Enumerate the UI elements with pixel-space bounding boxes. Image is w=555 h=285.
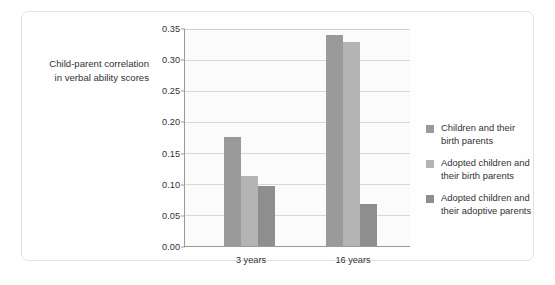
- bar[interactable]: [258, 186, 275, 246]
- y-tick-mark: [181, 215, 185, 216]
- legend-label: Children and their birth parents: [441, 122, 515, 147]
- legend-label: Adopted children and their birth parents: [441, 157, 530, 182]
- y-tick-mark: [181, 247, 185, 248]
- y-tick-label: 0.25: [162, 86, 180, 96]
- legend-label: Adopted children and their adoptive pare…: [441, 192, 531, 217]
- y-tick-mark: [181, 184, 185, 185]
- plot-inner: 0.000.050.100.150.200.250.300.353 years1…: [185, 29, 410, 246]
- y-tick-label: 0.35: [162, 24, 180, 34]
- y-tick-mark: [181, 153, 185, 154]
- bar[interactable]: [326, 35, 343, 246]
- y-tick-mark: [181, 91, 185, 92]
- legend-swatch-icon: [426, 160, 434, 168]
- y-tick-mark: [181, 60, 185, 61]
- plot-area: 0.000.050.100.150.200.250.300.353 years1…: [184, 29, 410, 247]
- y-tick-label: 0.00: [162, 242, 180, 252]
- y-tick-mark: [181, 122, 185, 123]
- bar-group: 16 years: [326, 29, 380, 246]
- y-tick-label: 0.10: [162, 180, 180, 190]
- chart-figure: Child-parent correlation in verbal abili…: [21, 11, 534, 261]
- y-axis-title: Child-parent correlation in verbal abili…: [24, 57, 149, 84]
- y-tick-mark: [181, 29, 185, 30]
- x-tick-label: 16 years: [326, 255, 380, 265]
- legend-swatch-icon: [426, 125, 434, 133]
- bar[interactable]: [241, 176, 258, 246]
- bar[interactable]: [224, 137, 241, 246]
- bar[interactable]: [343, 42, 360, 246]
- legend-item[interactable]: Adopted children and their birth parents: [426, 157, 546, 182]
- chart-legend: Children and their birth parentsAdopted …: [426, 122, 546, 227]
- legend-item[interactable]: Adopted children and their adoptive pare…: [426, 192, 546, 217]
- legend-item[interactable]: Children and their birth parents: [426, 122, 546, 147]
- x-tick-label: 3 years: [224, 255, 278, 265]
- y-tick-label: 0.05: [162, 211, 180, 221]
- bar-group: 3 years: [224, 29, 278, 246]
- y-tick-label: 0.15: [162, 149, 180, 159]
- bar[interactable]: [360, 204, 377, 246]
- y-tick-label: 0.20: [162, 117, 180, 127]
- legend-swatch-icon: [426, 195, 434, 203]
- y-tick-label: 0.30: [162, 55, 180, 65]
